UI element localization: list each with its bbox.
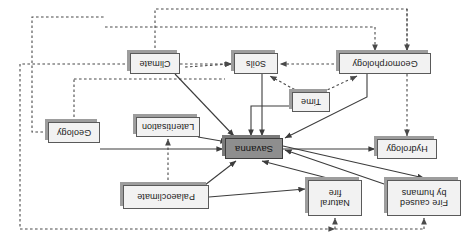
- edge-palaeoclimate-to-savanna: [205, 161, 236, 185]
- node-label: Geology: [57, 127, 91, 138]
- node-label: Climate: [139, 58, 170, 69]
- figure-page: Fire caused by humans Natural fire Palae…: [0, 0, 475, 249]
- edge-time-to-soils: [270, 76, 299, 92]
- node-soils[interactable]: Soils: [234, 53, 278, 74]
- node-lateritisation[interactable]: Lateritisation: [136, 117, 200, 137]
- edge-time-to-savanna: [251, 106, 292, 136]
- node-label: Natural fire: [320, 188, 350, 209]
- node-climate[interactable]: Climate: [130, 53, 180, 74]
- node-label: Soils: [246, 58, 266, 69]
- edge-climate-mid-rail: [105, 27, 375, 51]
- edge-palaeoclimate-to-natural-fire: [209, 189, 305, 197]
- edge-geology-to-right-rail: [32, 17, 105, 132]
- node-label: Savanna: [235, 143, 273, 154]
- node-time[interactable]: Time: [292, 92, 330, 112]
- node-label: Time: [301, 97, 321, 108]
- node-label: Fire caused by humans: [400, 188, 448, 209]
- node-palaeoclimate[interactable]: Palaeoclimate: [123, 185, 209, 209]
- node-label: Hydrology: [386, 144, 427, 155]
- node-savanna[interactable]: Savanna: [225, 138, 283, 159]
- node-geomorphology[interactable]: Geomorphology: [339, 53, 431, 74]
- node-hydrology[interactable]: Hydrology: [377, 139, 437, 159]
- node-natural-fire[interactable]: Natural fire: [308, 180, 362, 216]
- node-label: Geomorphology: [352, 58, 417, 69]
- edge-time-to-geomorphology: [323, 76, 357, 92]
- node-label: Lateritisation: [142, 122, 194, 133]
- diagram-canvas: Fire caused by humans Natural fire Palae…: [0, 0, 475, 249]
- node-geology[interactable]: Geology: [48, 122, 100, 143]
- edge-climate-to-hydrology: [155, 9, 407, 53]
- node-label: Palaeoclimate: [137, 192, 195, 203]
- node-fire-caused-by-humans[interactable]: Fire caused by humans: [387, 180, 461, 216]
- edge-lateritisation-to-savanna: [198, 137, 227, 142]
